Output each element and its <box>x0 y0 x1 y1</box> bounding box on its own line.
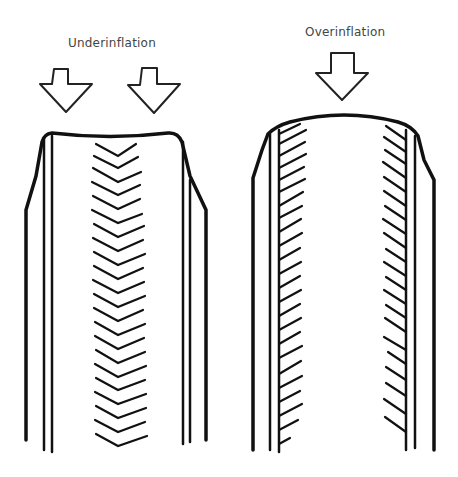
right-shoulder-wear <box>383 126 406 432</box>
down-arrow-icon <box>128 68 180 113</box>
tire-diagram <box>0 0 458 477</box>
down-arrow-icon <box>316 53 368 100</box>
center-tread-wear <box>92 144 147 446</box>
left-shoulder-wear <box>279 124 306 444</box>
down-arrow-icon <box>40 69 92 112</box>
pressure-arrows <box>40 53 368 113</box>
overinflated-tire <box>253 115 434 452</box>
underinflated-tire <box>26 133 206 452</box>
